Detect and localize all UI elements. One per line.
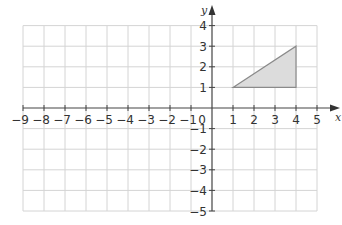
x-tick-label: 2: [250, 113, 258, 127]
y-tick-label: −5: [189, 205, 207, 219]
y-tick-label: −3: [189, 163, 207, 177]
x-tick-label: 4: [292, 113, 300, 127]
y-tick-label: 1: [199, 81, 207, 95]
tick-labels: −9−8−7−6−5−4−3−2−1123454321−1−2−3−4−5: [11, 19, 321, 218]
y-tick-label: 3: [199, 40, 207, 54]
x-tick-label: 5: [313, 113, 321, 127]
y-tick-label: 4: [199, 19, 207, 33]
x-tick-label: 3: [271, 113, 279, 127]
coordinate-plane: −9−8−7−6−5−4−3−2−1123454321−1−2−3−4−5 0 …: [0, 0, 342, 225]
origin-label: 0: [198, 113, 206, 127]
x-tick-label: −2: [158, 113, 176, 127]
x-tick-label: 1: [229, 113, 237, 127]
y-tick-label: −2: [189, 143, 207, 157]
x-axis-label: x: [335, 111, 342, 124]
y-axis-arrow-icon: [209, 5, 216, 15]
x-tick-label: −6: [74, 113, 92, 127]
y-tick-label: −4: [189, 184, 207, 198]
x-tick-label: −8: [32, 113, 50, 127]
x-tick-label: −5: [95, 113, 113, 127]
y-axis-label: y: [200, 4, 208, 17]
x-tick-label: −9: [11, 113, 29, 127]
x-tick-label: −4: [116, 113, 134, 127]
x-tick-label: −3: [137, 113, 155, 127]
y-tick-label: 2: [199, 60, 207, 74]
x-tick-label: −7: [53, 113, 71, 127]
